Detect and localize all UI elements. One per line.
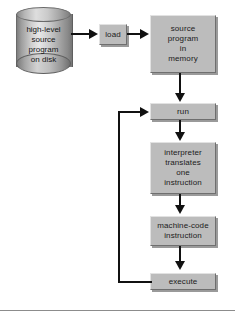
edge-source-to-run-line [179,73,181,94]
node-run: run [150,103,216,120]
node-machine-code-instruction-label: machine-code instruction [151,221,215,241]
edge-machine-to-execute-arrow-icon [175,261,185,270]
edge-execute-to-run-bottom-segment [118,281,152,283]
node-execute: execute [150,273,216,290]
node-source-program-in-memory: source program in memory [150,15,216,73]
edge-disk-to-load-line [71,33,90,35]
edge-load-to-source-arrow-icon [140,29,149,39]
edge-execute-to-run-vertical-segment [118,111,120,283]
node-disk-label: high-level source program on disk [16,25,71,65]
node-load-label: load [100,30,126,40]
edge-machine-to-execute-line [179,246,181,262]
edge-interpreter-to-machine-arrow-icon [175,205,185,214]
interpreter-flowchart: high-level source program on disk load s… [0,0,235,318]
edge-execute-to-run-top-segment [118,111,142,113]
edge-disk-to-load-arrow-icon [89,29,98,39]
node-interpreter-label: interpreter translates one instruction [151,148,215,188]
node-run-label: run [151,107,215,117]
node-execute-label: execute [151,277,215,287]
node-disk: high-level source program on disk [16,7,71,74]
edge-run-to-interpreter-arrow-icon [175,132,185,141]
node-machine-code-instruction: machine-code instruction [150,216,216,246]
edge-source-to-run-arrow-icon [175,93,185,102]
node-load: load [99,24,127,45]
node-source-program-in-memory-label: source program in memory [151,24,215,64]
edge-execute-to-run-arrow-icon [140,107,149,117]
node-interpreter: interpreter translates one instruction [150,142,216,194]
edge-load-to-source-line [127,33,141,35]
bottom-divider [0,310,235,311]
cylinder-top [16,7,71,22]
